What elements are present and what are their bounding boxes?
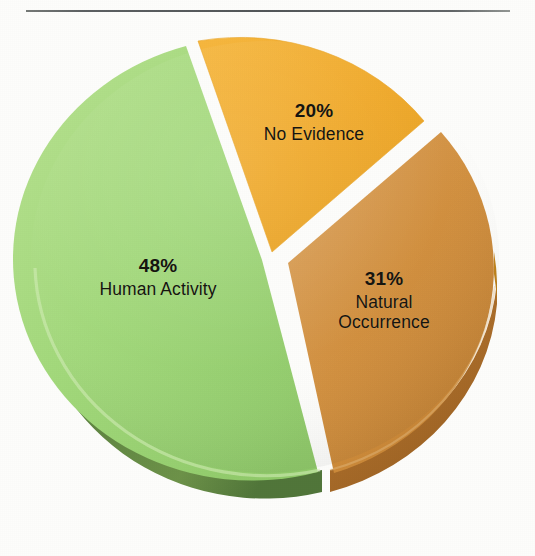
chart-page: 48% Human Activity 20% No Evidence 31% N…: [0, 0, 535, 556]
pie-chart: [0, 0, 535, 556]
